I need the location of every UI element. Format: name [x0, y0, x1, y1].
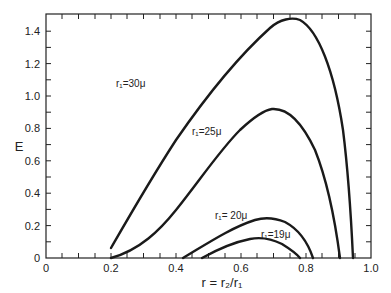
y-tick-label: 1.4: [25, 25, 40, 37]
curve-label-30: r₁=30μ: [116, 78, 146, 89]
curve-r1-25: [111, 109, 340, 258]
x-tick-label: 0.2: [103, 262, 118, 274]
y-tick-label: 1.0: [25, 90, 40, 102]
chart: 0 0.2 0.4 0.6 0.8 1.0 0 0.2 0.4 0.6 0.8 …: [0, 0, 391, 293]
curve-r1-19: [202, 238, 300, 258]
x-tick-label: 1.0: [363, 262, 378, 274]
x-tick-label: 0.6: [233, 262, 248, 274]
y-tick-label: 0.8: [25, 122, 40, 134]
curve-label-19: r₁=19μ: [261, 229, 291, 240]
y-tick-label: 0.4: [25, 187, 40, 199]
curve-label-25: r₁=25μ: [192, 126, 222, 137]
y-axis-label: E: [15, 139, 24, 154]
x-tick-label: 0: [43, 262, 49, 274]
y-tick-label: 1.2: [25, 58, 40, 70]
y-tick-label: 0: [34, 252, 40, 264]
x-axis-label: r = r₂/r₁: [202, 275, 243, 290]
y-tick-label: 0.2: [25, 220, 40, 232]
curve-label-20: r₁= 20μ: [215, 210, 247, 221]
x-tick-label: 0.4: [168, 262, 183, 274]
x-tick-label: 0.8: [298, 262, 313, 274]
y-tick-label: 0.6: [25, 155, 40, 167]
